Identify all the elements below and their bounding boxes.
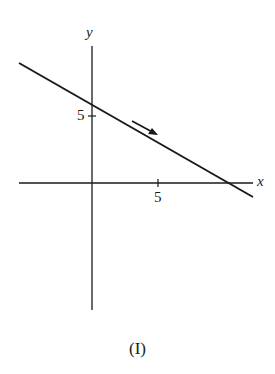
graph-canvas — [0, 0, 275, 374]
direction-arrow-icon — [132, 121, 158, 135]
figure-caption: (I) — [129, 339, 146, 359]
y-tick-label-5: 5 — [77, 107, 85, 124]
plotted-line — [19, 63, 253, 197]
x-axis-label: x — [257, 173, 264, 190]
y-axis-label: y — [86, 24, 93, 41]
x-tick-label-5: 5 — [154, 189, 162, 206]
